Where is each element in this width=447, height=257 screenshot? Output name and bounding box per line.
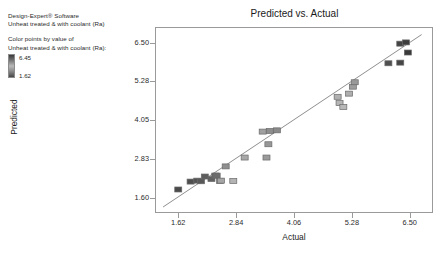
x-axis-title: Actual bbox=[155, 232, 433, 242]
y-axis-tick-mark bbox=[150, 81, 155, 82]
x-axis-tick-mark bbox=[178, 213, 179, 218]
y-axis-tick-mark bbox=[150, 198, 155, 199]
y-axis-tick-mark bbox=[150, 159, 155, 160]
x-axis-tick-mark bbox=[410, 213, 411, 218]
x-axis-tick-mark bbox=[352, 213, 353, 218]
x-axis-tick-label: 6.50 bbox=[390, 219, 430, 227]
y-axis-tick-mark bbox=[150, 43, 155, 44]
x-axis-tick-label: 1.62 bbox=[158, 219, 198, 227]
x-axis-tick-label: 2.84 bbox=[216, 219, 256, 227]
x-axis-tick-mark bbox=[294, 213, 295, 218]
x-axis-tick-label: 4.06 bbox=[274, 219, 314, 227]
y-axis-tick-mark bbox=[150, 120, 155, 121]
y-axis-title: Predicted bbox=[9, 87, 19, 147]
x-axis-tick-label: 5.28 bbox=[332, 219, 372, 227]
x-axis-tick-mark bbox=[236, 213, 237, 218]
predicted-vs-actual-chart: Predicted vs. Actual 1.602.834.055.286.5… bbox=[0, 0, 447, 257]
x-axis-ticks: 1.622.844.065.286.50 bbox=[0, 0, 447, 257]
